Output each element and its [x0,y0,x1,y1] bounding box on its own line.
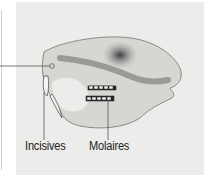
orbit-shadow [102,41,138,69]
label-incisives: Incisives [25,139,66,153]
label-molaires: Molaires [89,139,129,153]
